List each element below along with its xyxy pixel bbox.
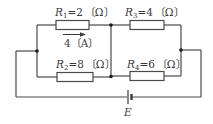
junction-node-right <box>179 48 183 52</box>
label-source-e: E <box>123 106 132 118</box>
resistor-r1 <box>56 21 89 30</box>
label-r4: R4=6〔Ω〕 <box>126 58 186 72</box>
resistor-r2 <box>57 73 93 82</box>
resistor-r4 <box>130 72 164 81</box>
label-current: 4〔A〕 <box>64 37 98 49</box>
junction-node-middle-top <box>109 23 113 27</box>
circuit-diagram: R1=2〔Ω〕 4〔A〕 R2=8〔Ω〕 R3=4〔Ω〕 R4=6〔Ω〕 E <box>0 0 213 124</box>
label-r1: R1=2〔Ω〕 <box>54 6 114 20</box>
battery-icon <box>128 90 132 104</box>
resistor-r3 <box>130 21 164 30</box>
junction-node-middle-bottom <box>109 75 113 79</box>
label-r2: R2=8〔Ω〕 <box>55 58 115 72</box>
label-r3: R3=4〔Ω〕 <box>124 6 184 20</box>
junction-node-left <box>35 49 39 53</box>
